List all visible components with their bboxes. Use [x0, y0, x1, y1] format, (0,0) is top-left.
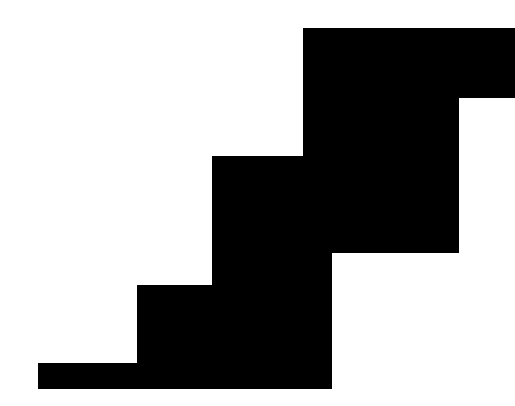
image-canvas	[0, 0, 515, 406]
staircase-figure	[0, 0, 515, 406]
